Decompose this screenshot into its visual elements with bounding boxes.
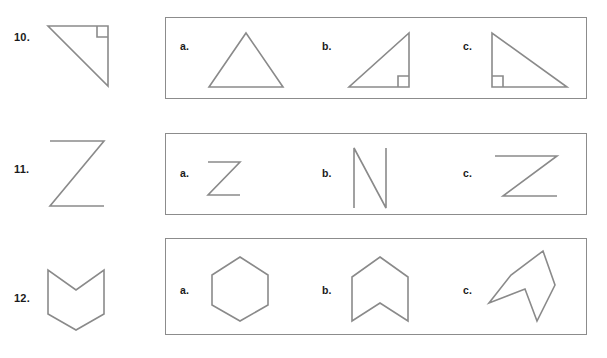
- choice-shape-10-b: [346, 30, 421, 90]
- problem-row-12: 12. a. b.: [0, 228, 607, 358]
- prompt-shape-11: [42, 136, 114, 212]
- choice-shape-10-a: [206, 30, 286, 90]
- question-number-11: 11.: [14, 163, 29, 175]
- choice-label-11-b: b.: [322, 167, 332, 179]
- choices-box-12: a. b. c.: [165, 238, 587, 335]
- question-number-12: 12.: [14, 292, 30, 304]
- letter-n-icon: [350, 144, 392, 212]
- worksheet-sheet: 10. a. b.: [0, 0, 607, 358]
- choice-12-a[interactable]: a.: [166, 239, 306, 334]
- choice-10-c[interactable]: c.: [447, 18, 588, 98]
- equilateral-triangle-icon: [206, 30, 286, 90]
- right-triangle-right-angle-bottom-right-icon: [346, 30, 421, 90]
- right-triangle-right-angle-top-right-icon: [44, 20, 114, 92]
- choice-label-12-a: a.: [180, 284, 189, 296]
- choice-12-c[interactable]: c.: [447, 239, 588, 334]
- choice-shape-12-a: [206, 253, 276, 325]
- choice-shape-11-c: [491, 152, 563, 204]
- prompt-shape-12: [42, 264, 112, 334]
- choice-shape-11-a: [204, 159, 246, 199]
- choice-label-11-c: c.: [463, 167, 472, 179]
- choice-label-12-b: b.: [322, 284, 332, 296]
- choice-11-b[interactable]: b.: [306, 134, 447, 214]
- letter-z-large-icon: [42, 136, 114, 212]
- letter-z-small-icon: [204, 159, 246, 199]
- choice-label-10-a: a.: [180, 40, 189, 52]
- right-triangle-right-angle-bottom-left-icon: [487, 30, 572, 90]
- choice-12-b[interactable]: b.: [306, 239, 447, 334]
- prompt-shape-10: [44, 20, 114, 92]
- choice-label-10-b: b.: [322, 40, 332, 52]
- choice-11-c[interactable]: c.: [447, 134, 588, 214]
- choice-label-11-a: a.: [180, 167, 189, 179]
- choice-shape-12-b: [346, 253, 414, 325]
- choice-10-a[interactable]: a.: [166, 18, 306, 98]
- choice-shape-11-b: [350, 144, 392, 212]
- choice-shape-12-c: [485, 247, 563, 331]
- choice-11-a[interactable]: a.: [166, 134, 306, 214]
- chevron-notched-pentagon-down-icon: [42, 264, 112, 334]
- chevron-notched-pentagon-up-icon: [346, 253, 414, 325]
- problem-row-10: 10. a. b.: [0, 0, 607, 118]
- choices-box-11: a. b. c.: [165, 133, 587, 215]
- choice-10-b[interactable]: b.: [306, 18, 447, 98]
- problem-row-11: 11. a. b.: [0, 118, 607, 228]
- choice-shape-10-c: [487, 30, 572, 90]
- choice-label-10-c: c.: [463, 40, 472, 52]
- choices-box-10: a. b. c.: [165, 17, 587, 99]
- chevron-notched-pentagon-rotated-icon: [485, 247, 563, 331]
- hexagon-icon: [206, 253, 276, 325]
- letter-z-wide-icon: [491, 152, 563, 204]
- question-number-10: 10.: [14, 31, 30, 43]
- choice-label-12-c: c.: [463, 284, 472, 296]
